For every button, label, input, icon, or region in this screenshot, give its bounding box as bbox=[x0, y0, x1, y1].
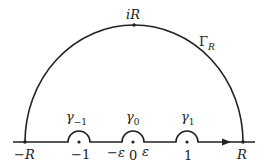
label-iR: iR bbox=[126, 8, 140, 21]
gamma-R-subscript: R bbox=[208, 42, 215, 52]
point-1 bbox=[185, 140, 188, 143]
point-neg-R bbox=[23, 140, 27, 144]
label-gamma-minus-1: γ−1 bbox=[66, 110, 87, 127]
label-one: 1 bbox=[184, 149, 192, 162]
gamma-0-symbol: γ bbox=[126, 109, 134, 124]
label-neg-1: −1 bbox=[71, 148, 90, 161]
gamma-1-subscript: 1 bbox=[189, 117, 195, 127]
label-R: R bbox=[237, 148, 247, 161]
point-neg-1 bbox=[77, 140, 80, 143]
label-neg-R: −R bbox=[14, 148, 35, 161]
point-0 bbox=[131, 140, 134, 143]
gamma-m1-subscript: −1 bbox=[74, 117, 87, 127]
real-axis-path bbox=[13, 131, 255, 142]
point-R bbox=[241, 140, 245, 144]
gamma-m1-symbol: γ bbox=[66, 109, 74, 124]
contour-svg bbox=[0, 0, 267, 165]
gamma-0-subscript: 0 bbox=[134, 117, 140, 127]
direction-arrow-icon bbox=[222, 139, 231, 146]
label-gamma-1: γ1 bbox=[181, 110, 195, 127]
gamma-R-symbol: Γ bbox=[199, 34, 208, 49]
label-neg-epsilon: −ε bbox=[107, 146, 125, 159]
point-iR bbox=[132, 23, 136, 27]
label-gamma-R: ΓR bbox=[199, 35, 215, 52]
label-zero: 0 bbox=[129, 149, 137, 162]
gamma-1-symbol: γ bbox=[181, 109, 189, 124]
label-gamma-0: γ0 bbox=[126, 110, 140, 127]
contour-diagram: iR ΓR γ−1 γ0 γ1 −R −1 −ε 0 ε 1 R bbox=[0, 0, 267, 165]
label-epsilon: ε bbox=[142, 145, 149, 158]
